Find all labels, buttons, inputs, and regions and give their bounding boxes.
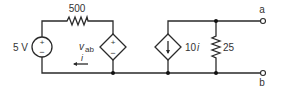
junction-dot-top bbox=[214, 19, 218, 23]
wire-left-top bbox=[42, 21, 65, 37]
resistor-500-zigzag bbox=[65, 17, 90, 25]
dcs-label-coef: 10 bbox=[185, 42, 197, 53]
terminal-a-label: a bbox=[259, 4, 265, 15]
junction-dot-bottom-3 bbox=[214, 71, 218, 75]
dcs-label-var: i bbox=[197, 42, 200, 53]
wire-top-mid bbox=[90, 21, 113, 34]
junction-dot-bottom-1 bbox=[111, 71, 115, 75]
terminal-a-circle bbox=[261, 19, 266, 24]
resistor-25-label: 25 bbox=[223, 42, 235, 53]
current-label: i bbox=[81, 53, 84, 63]
resistor-25-zigzag bbox=[212, 34, 220, 60]
wire-top-right bbox=[168, 21, 262, 34]
dependent-current-source: 10 i bbox=[155, 34, 200, 60]
junction-dot-bottom-2 bbox=[166, 71, 170, 75]
arrow-left-icon bbox=[73, 62, 77, 66]
resistor-25: 25 bbox=[212, 34, 235, 60]
terminal-a: a bbox=[259, 4, 265, 24]
circuit-diagram: 500 + − 5 V + − v ab i 10 i 25 bbox=[0, 0, 283, 88]
voltage-source-plus: + bbox=[40, 38, 45, 47]
resistor-500: 500 bbox=[65, 3, 90, 25]
terminal-b-circle bbox=[261, 71, 266, 76]
terminal-b: b bbox=[259, 71, 265, 89]
voltage-source-label: 5 V bbox=[13, 42, 28, 53]
voltage-source-minus: − bbox=[39, 47, 44, 57]
terminal-b-label: b bbox=[259, 77, 265, 88]
current-indicator: i bbox=[73, 53, 88, 66]
dvs-label-sub: ab bbox=[85, 45, 94, 54]
dvs-plus: + bbox=[111, 38, 116, 47]
dvs-minus: − bbox=[110, 48, 115, 58]
resistor-500-label: 500 bbox=[69, 3, 86, 14]
voltage-source-5v: + − 5 V bbox=[13, 37, 52, 57]
dependent-voltage-source: + − v ab bbox=[79, 34, 126, 60]
